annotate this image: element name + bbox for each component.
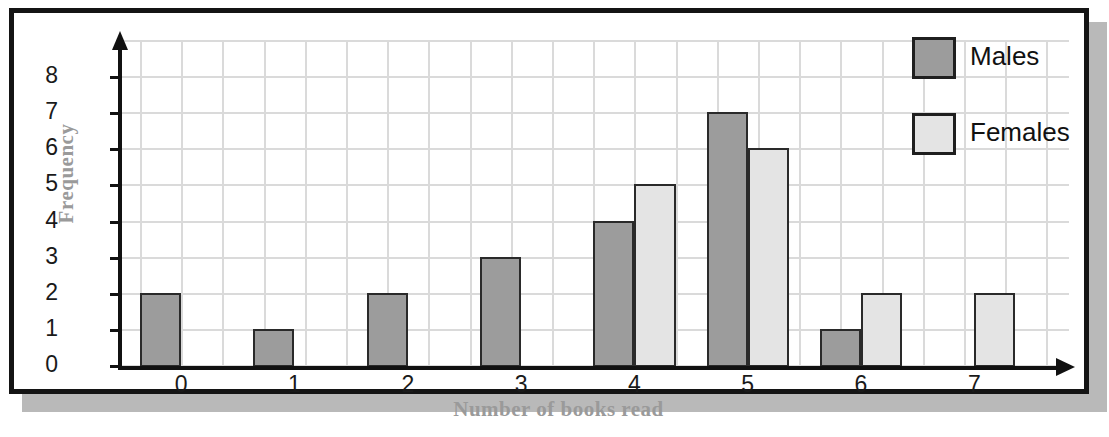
- y-tick-label: 1: [18, 315, 58, 342]
- bar-males-0: [140, 293, 181, 367]
- gridline-vertical: [305, 41, 307, 366]
- y-tick-label: 5: [18, 170, 58, 197]
- y-tick-label: 0: [18, 351, 58, 378]
- gridline-vertical: [1046, 41, 1048, 366]
- legend-swatch-males: [912, 37, 956, 79]
- gridline-vertical: [470, 41, 472, 366]
- x-tick-label-1: 1: [265, 371, 325, 398]
- x-axis-title: Number of books read: [14, 397, 1103, 422]
- x-tick-label-6: 6: [831, 371, 891, 398]
- gridline-vertical: [676, 41, 678, 366]
- x-tick-label-2: 2: [378, 371, 438, 398]
- gridline-vertical: [552, 41, 554, 366]
- gridline-vertical: [428, 41, 430, 366]
- gridline-vertical: [923, 41, 925, 366]
- gridline-vertical: [346, 41, 348, 366]
- bar-males-6: [820, 329, 861, 367]
- bar-females-6: [861, 293, 902, 367]
- bar-females-5: [748, 148, 789, 367]
- x-axis-arrow-icon: [1056, 358, 1075, 376]
- bar-females-7: [974, 293, 1015, 367]
- y-tick-mark: [110, 76, 122, 79]
- gridline-vertical: [222, 41, 224, 366]
- bar-males-5: [707, 112, 748, 367]
- x-tick-label-0: 0: [151, 371, 211, 398]
- legend-swatch-females: [912, 113, 956, 155]
- y-tick-label: 8: [18, 62, 58, 89]
- y-tick-mark: [110, 365, 122, 368]
- gridline-vertical: [264, 41, 266, 366]
- plot-area: [122, 41, 1069, 366]
- y-tick-label: 4: [18, 207, 58, 234]
- gridline-vertical: [799, 41, 801, 366]
- y-tick-mark: [110, 112, 122, 115]
- y-tick-label: 7: [18, 98, 58, 125]
- x-axis-line: [118, 366, 1058, 370]
- legend-label-females: Females: [970, 117, 1070, 148]
- gridline-vertical: [840, 41, 842, 366]
- gridline-vertical: [181, 41, 183, 366]
- y-axis-title: Frequency: [54, 74, 79, 274]
- gridline-vertical: [964, 41, 966, 366]
- y-tick-label: 6: [18, 134, 58, 161]
- y-tick-mark: [110, 329, 122, 332]
- y-tick-mark: [110, 221, 122, 224]
- chart-frame: 012345678 01234567 Frequency Number of b…: [9, 8, 1089, 394]
- y-axis-line: [118, 47, 122, 369]
- y-tick-label: 2: [18, 279, 58, 306]
- bar-males-4: [593, 221, 634, 367]
- x-tick-label-4: 4: [604, 371, 664, 398]
- y-tick-mark: [110, 148, 122, 151]
- bar-females-4: [634, 184, 675, 367]
- figure-panel: 012345678 01234567 Frequency Number of b…: [0, 0, 1109, 437]
- bar-males-2: [367, 293, 408, 367]
- y-tick-mark: [110, 184, 122, 187]
- y-tick-mark: [110, 293, 122, 296]
- y-tick-label: 3: [18, 243, 58, 270]
- bar-males-1: [253, 329, 294, 367]
- x-tick-label-3: 3: [491, 371, 551, 398]
- legend-label-males: Males: [970, 41, 1039, 72]
- y-axis-arrow-icon: [112, 31, 128, 50]
- y-tick-mark: [110, 257, 122, 260]
- x-tick-label-5: 5: [718, 371, 778, 398]
- bar-males-3: [480, 257, 521, 367]
- x-tick-label-7: 7: [944, 371, 1004, 398]
